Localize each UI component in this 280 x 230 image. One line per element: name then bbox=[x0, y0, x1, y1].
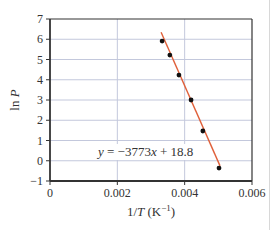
y-tick-label: 1 bbox=[37, 134, 43, 148]
equation-label: y = −3773x + 18.8 bbox=[96, 144, 193, 159]
data-point bbox=[167, 53, 172, 58]
y-tick-label: 7 bbox=[37, 12, 43, 26]
x-tick-label: 0.006 bbox=[239, 186, 266, 200]
equation-annotation: y = −3773x + 18.8 bbox=[95, 144, 197, 160]
page-border bbox=[269, 0, 270, 230]
chart: y = −3773x + 18.8 −101234567 00.0020.004… bbox=[0, 0, 280, 230]
data-point bbox=[217, 166, 222, 171]
equation-mid: = −3773 bbox=[104, 144, 151, 159]
y-tick-label: 6 bbox=[37, 32, 43, 46]
data-point bbox=[160, 39, 165, 44]
y-tick-label: 5 bbox=[37, 53, 43, 67]
data-point bbox=[177, 73, 182, 78]
x-tick-label: 0.004 bbox=[171, 186, 198, 200]
x-axis-label-prefix: 1/ bbox=[127, 204, 138, 219]
y-tick-label: −1 bbox=[30, 174, 43, 188]
x-axis-label: 1/T (K−1) bbox=[127, 203, 175, 219]
y-tick-label: 3 bbox=[37, 93, 43, 107]
x-axis-label-exponent: −1 bbox=[161, 203, 171, 213]
y-axis-label-var: P bbox=[7, 89, 22, 98]
x-axis-label-close: ) bbox=[171, 204, 175, 219]
y-axis-label: ln P bbox=[7, 89, 22, 110]
y-axis-label-ln: ln bbox=[7, 97, 22, 110]
y-tick-label: 4 bbox=[37, 73, 43, 87]
equation-rest: + 18.8 bbox=[157, 144, 194, 159]
y-tick-label: 2 bbox=[37, 113, 43, 127]
data-point bbox=[200, 129, 205, 134]
x-tick-label: 0.002 bbox=[104, 186, 131, 200]
y-tick-label: 0 bbox=[37, 154, 43, 168]
x-axis-label-unit: (K bbox=[144, 204, 162, 219]
x-tick-label: 0 bbox=[47, 186, 53, 200]
y-axis-ticks: −101234567 bbox=[30, 12, 50, 188]
x-axis-ticks: 00.0020.0040.006 bbox=[47, 181, 266, 200]
data-point bbox=[189, 98, 194, 103]
